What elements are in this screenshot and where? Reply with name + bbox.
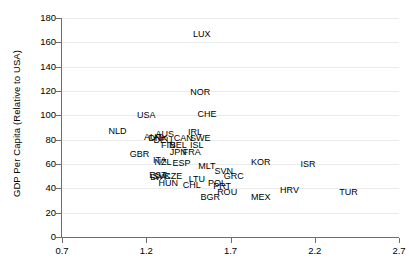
gridline	[62, 67, 399, 68]
data-point-label: MLT	[198, 162, 215, 171]
y-tick-label: 120	[4, 85, 56, 96]
y-tick-label: 80	[4, 134, 56, 145]
x-tick-label: 2.2	[295, 245, 335, 256]
x-tick-mark	[315, 238, 316, 243]
x-tick-mark	[146, 238, 147, 243]
y-tick-label: 20	[4, 207, 56, 218]
data-point-label: HUN	[158, 179, 178, 188]
data-point-label: CHL	[183, 180, 201, 189]
y-tick-label: 140	[4, 61, 56, 72]
data-point-label: FRA	[183, 147, 201, 156]
x-tick-mark	[62, 238, 63, 243]
x-tick-label: 1.2	[126, 245, 166, 256]
gridline	[62, 140, 399, 141]
y-tick-label: 0	[4, 231, 56, 242]
data-point-label: GRC	[224, 172, 244, 181]
data-point-label: NLD	[109, 127, 127, 136]
scatter-chart: GDP Per Capita (Relative to USA) 0204060…	[0, 0, 409, 278]
gridline	[62, 18, 399, 19]
data-point-label: BGR	[201, 192, 221, 201]
y-tick-label: 40	[4, 182, 56, 193]
data-point-label: ESP	[173, 158, 191, 167]
data-point-label: NZL	[155, 157, 172, 166]
data-point-label: KOR	[251, 157, 271, 166]
x-tick-label: 1.7	[211, 245, 251, 256]
data-point-label: MEX	[251, 192, 271, 201]
x-tick-label: 0.7	[42, 245, 82, 256]
y-axis-title: GDP Per Capita (Relative to USA)	[11, 24, 22, 224]
data-point-label: ISR	[300, 160, 315, 169]
gridline	[62, 91, 399, 92]
y-tick-label: 160	[4, 36, 56, 47]
gridline	[62, 213, 399, 214]
data-point-label: USA	[137, 111, 156, 120]
gridline	[62, 115, 399, 116]
x-tick-mark	[231, 238, 232, 243]
y-tick-label: 60	[4, 158, 56, 169]
y-tick-label: 100	[4, 109, 56, 120]
data-point-label: HRV	[280, 185, 299, 194]
gridline	[62, 42, 399, 43]
data-point-label: NOR	[190, 88, 210, 97]
data-point-label: CHE	[197, 110, 216, 119]
data-point-label: GBR	[130, 150, 150, 159]
plot-area: LUXNORCHEUSANLDIRLAUSAUTDNKDEUCANSWEFINB…	[62, 18, 399, 237]
data-point-label: TUR	[339, 187, 358, 196]
data-point-label: LUX	[193, 29, 211, 38]
y-tick-label: 180	[4, 12, 56, 23]
x-tick-mark	[399, 238, 400, 243]
x-tick-label: 2.7	[379, 245, 409, 256]
